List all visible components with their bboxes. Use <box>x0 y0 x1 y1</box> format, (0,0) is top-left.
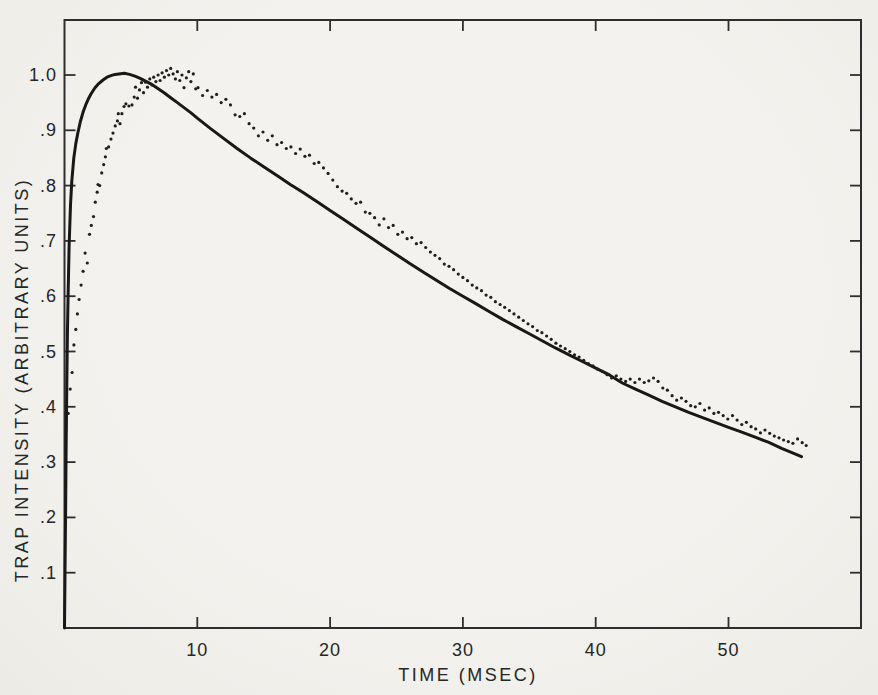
data-dot <box>210 96 213 99</box>
x-tick-label: 10 <box>186 640 208 660</box>
data-dot <box>224 98 227 101</box>
data-dot <box>69 388 72 391</box>
data-dot <box>661 386 664 389</box>
data-dot <box>396 233 399 236</box>
data-dot <box>146 86 149 89</box>
trap-intensity-chart: 1020304050 1.0.9.8.7.6.5.4.3.2.1 TIME (M… <box>0 0 878 695</box>
data-dot <box>433 254 436 257</box>
y-tick-label: .9 <box>40 120 57 140</box>
x-tick-label: 50 <box>717 640 739 660</box>
data-dot <box>605 373 608 376</box>
data-dot <box>722 414 725 417</box>
y-tick-label: .7 <box>40 231 57 251</box>
data-dot <box>140 81 143 84</box>
data-dot <box>294 152 297 155</box>
data-dot <box>92 215 95 218</box>
y-tick-label: 1.0 <box>29 65 57 85</box>
data-dot <box>763 428 766 431</box>
y-axis-ticks <box>65 75 862 573</box>
y-tick-label: .2 <box>40 507 57 527</box>
data-dot <box>726 417 729 420</box>
data-dot <box>601 370 604 373</box>
data-dot <box>142 91 145 94</box>
data-dot <box>485 294 488 297</box>
data-dot <box>289 145 292 148</box>
data-dot <box>387 226 390 229</box>
data-dot <box>122 105 125 108</box>
data-dot <box>96 191 99 194</box>
data-dot <box>354 202 357 205</box>
data-dot <box>130 103 133 106</box>
data-dot <box>317 161 320 164</box>
data-dot <box>624 380 627 383</box>
data-dot <box>313 162 316 165</box>
data-dot <box>257 134 260 137</box>
data-dot <box>84 252 87 255</box>
data-dot <box>67 412 70 415</box>
data-dot <box>578 355 581 358</box>
data-dot <box>410 236 413 239</box>
data-dot <box>280 141 283 144</box>
data-dot <box>401 231 404 234</box>
data-dot <box>420 241 423 244</box>
data-dot <box>489 296 492 299</box>
data-dot <box>587 362 590 365</box>
data-dot <box>368 212 371 215</box>
data-dot <box>215 93 218 96</box>
data-dot <box>768 432 771 435</box>
y-tick-label: .1 <box>40 563 57 583</box>
data-dot <box>443 263 446 266</box>
data-dot <box>163 76 166 79</box>
data-dot <box>206 89 209 92</box>
data-dot <box>694 405 697 408</box>
data-dot <box>531 325 534 328</box>
y-axis-title: TRAP INTENSITY (ARBITRARY UNITS) <box>12 178 32 583</box>
data-dot <box>176 70 179 73</box>
data-dot <box>508 309 511 312</box>
data-dot <box>74 328 77 331</box>
y-tick-label: .4 <box>40 397 57 417</box>
y-tick-label: .5 <box>40 342 57 362</box>
data-dot <box>275 143 278 146</box>
data-dot <box>124 102 127 105</box>
data-dot <box>303 155 306 158</box>
data-dot <box>322 166 325 169</box>
data-dot <box>350 197 353 200</box>
data-dot <box>536 329 539 332</box>
x-axis-tick-labels: 1020304050 <box>186 640 739 660</box>
data-dot <box>116 119 119 122</box>
data-dot <box>698 402 701 405</box>
x-tick-label: 20 <box>319 640 341 660</box>
data-dot <box>554 342 557 345</box>
data-dot <box>154 80 157 83</box>
data-dot <box>457 273 460 276</box>
data-dot <box>138 88 141 91</box>
data-dot <box>331 179 334 182</box>
data-dot <box>805 444 808 447</box>
data-dot <box>86 261 89 264</box>
data-dot <box>80 284 83 287</box>
data-dot <box>182 86 185 89</box>
data-dot <box>754 427 757 430</box>
data-dot <box>359 201 362 204</box>
data-dot <box>791 442 794 445</box>
data-dot <box>684 400 687 403</box>
data-dot <box>327 172 330 175</box>
data-dot <box>159 79 162 82</box>
data-dot <box>161 71 164 74</box>
data-dot <box>373 216 376 219</box>
data-dot <box>299 148 302 151</box>
data-dot <box>238 115 241 118</box>
data-dot <box>167 73 170 76</box>
data-dot <box>187 70 190 73</box>
data-dot <box>619 378 622 381</box>
data-dot <box>657 380 660 383</box>
data-dot <box>740 423 743 426</box>
x-tick-label: 30 <box>452 640 474 660</box>
data-dot <box>573 353 576 356</box>
data-dot <box>148 77 151 80</box>
data-dot <box>759 431 762 434</box>
data-dot <box>522 319 525 322</box>
data-dot <box>447 265 450 268</box>
data-dot <box>689 404 692 407</box>
